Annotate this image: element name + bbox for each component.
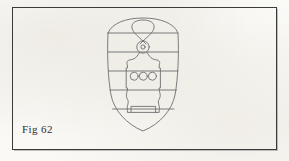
figure-page: Fig 62 [0, 0, 289, 161]
shield-drawing-svg [0, 0, 289, 161]
device-annulet-center [141, 45, 145, 49]
shield-outline [108, 18, 179, 131]
device-annulet-ring [137, 41, 149, 53]
device-roundel-left [130, 72, 138, 80]
figure-illustration [0, 0, 289, 161]
device-roundel-right [148, 72, 156, 80]
device-roundel-center [139, 72, 147, 80]
device-top-loop [132, 20, 154, 41]
figure-caption: Fig 62 [22, 123, 53, 135]
device-body [126, 53, 160, 113]
shield-group [108, 18, 179, 131]
